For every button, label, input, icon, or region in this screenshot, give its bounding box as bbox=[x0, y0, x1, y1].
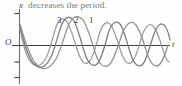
curve-label-3: 3 bbox=[57, 16, 62, 25]
curve-label-2: 2 bbox=[74, 16, 79, 25]
curve-2 bbox=[20, 17, 170, 67]
origin-label: O bbox=[5, 38, 12, 47]
caption-text: decreases the period. bbox=[28, 1, 107, 10]
x-axis-label: t bbox=[172, 40, 175, 49]
oscillation-figure: decreases the period. x t O 3 2 1 bbox=[0, 0, 182, 86]
curve-3 bbox=[20, 19, 169, 66]
curve-1 bbox=[20, 17, 168, 69]
curve-label-1: 1 bbox=[89, 16, 94, 25]
plot-area bbox=[0, 0, 182, 86]
y-axis-label: x bbox=[19, 1, 23, 10]
